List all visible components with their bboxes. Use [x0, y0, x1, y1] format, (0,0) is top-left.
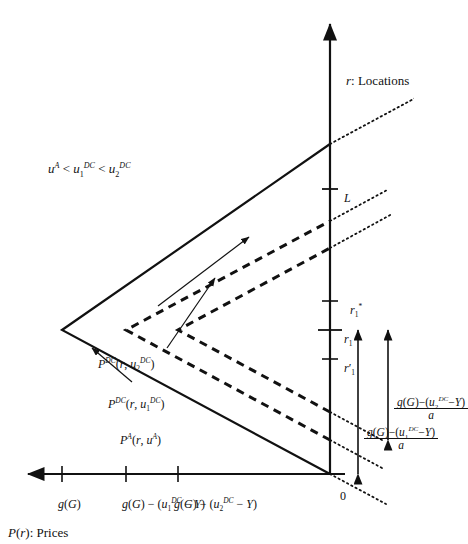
curve-label-PA: PA(r, uA): [120, 434, 161, 447]
x-axis-title: r: Locations: [346, 74, 409, 88]
inequality-annotation: uA < u1DC < u2DC: [48, 162, 131, 176]
x-tick-r1star: r1*: [350, 304, 362, 317]
curve-label-PDC2: PDC(r, u2DC): [98, 358, 154, 371]
x-tick-L: L: [344, 192, 351, 205]
curve-label-PDC1: PDC(r, u1DC): [108, 398, 164, 411]
span-fraction-1: g(G)−(u1DC−Y) a: [364, 426, 438, 451]
curve-PDC2-extensions: [330, 214, 392, 440]
x-tick-r1: r1: [344, 333, 352, 346]
curve-PA: [62, 144, 330, 474]
span-fraction-2: g(G)−(u2DC−Y) a: [394, 396, 468, 421]
y-tick-gG-u2: g(G) − (u2DC − Y): [174, 498, 257, 511]
y-tick-gG: g(G): [58, 498, 81, 511]
x-tick-r1prime: r′1: [344, 362, 355, 375]
curve-PDC2: [178, 248, 330, 412]
y-axis-title: P(r): Prices: [8, 526, 68, 540]
origin-label: 0: [340, 490, 346, 503]
